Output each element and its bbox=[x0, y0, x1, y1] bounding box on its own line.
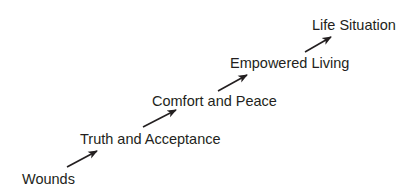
arrow-up-right-icon bbox=[218, 75, 247, 91]
step-label-wounds: Wounds bbox=[22, 172, 75, 187]
arrow-up-right-icon bbox=[305, 37, 331, 52]
step-label-empowered-living: Empowered Living bbox=[230, 56, 349, 71]
step-label-life-situation: Life Situation bbox=[312, 18, 396, 33]
step-label-comfort-and-peace: Comfort and Peace bbox=[152, 94, 277, 109]
arrow-up-right-icon bbox=[143, 110, 176, 127]
staircase-diagram: Wounds Truth and Acceptance Comfort and … bbox=[0, 0, 412, 193]
step-label-truth-and-acceptance: Truth and Acceptance bbox=[80, 132, 221, 147]
arrow-up-right-icon bbox=[67, 151, 97, 167]
